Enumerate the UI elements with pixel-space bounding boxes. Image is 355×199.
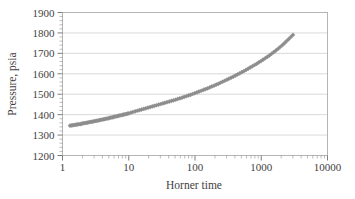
y-tick-label: 1400 xyxy=(33,109,56,121)
y-tick-label: 1200 xyxy=(33,150,56,162)
x-tick-label: 1000 xyxy=(250,161,273,173)
x-axis-title: Horner time xyxy=(166,179,222,191)
x-tick-label: 10 xyxy=(123,161,135,173)
y-tick-label: 1700 xyxy=(33,47,56,59)
y-tick-label: 1800 xyxy=(33,27,56,39)
y-axis-title: Pressure, psia xyxy=(6,52,19,115)
y-tick-label: 1600 xyxy=(33,68,56,80)
y-tick-label: 1900 xyxy=(33,7,56,19)
y-tick-label: 1300 xyxy=(33,129,56,141)
y-tick-label: 1500 xyxy=(33,88,56,100)
x-tick-label: 100 xyxy=(187,161,204,173)
x-tick-label: 10000 xyxy=(314,161,342,173)
chart-container: 110100100010000 120013001400150016001700… xyxy=(0,0,355,199)
pressure-vs-horner-time-chart: 110100100010000 120013001400150016001700… xyxy=(0,0,355,199)
x-tick-label: 1 xyxy=(60,161,66,173)
